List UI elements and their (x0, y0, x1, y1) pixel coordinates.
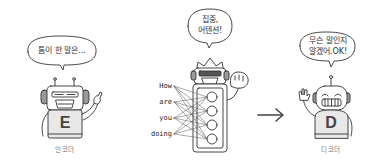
encoder-speech-text: 톰이 한 말은... (30, 46, 94, 56)
attention-speech-line2: 어텐션! (188, 26, 232, 36)
input-word: doing (138, 130, 172, 138)
decoder-label: 디코더 (318, 144, 344, 154)
decoder-speech-line1: 무슨 말인지 (302, 36, 354, 46)
encoder-label: 인코더 (52, 144, 78, 154)
input-word: you (138, 114, 172, 122)
right-arrow-icon (258, 109, 283, 121)
decoder-chest-letter: D (321, 114, 341, 132)
encoder-attention-decoder-diagram: 톰이 한 말은... E 인코더 집중, 어텐션! How are you do… (0, 0, 378, 164)
input-word: are (138, 98, 172, 106)
attention-speech-line1: 집중, (188, 15, 232, 25)
decoder-speech-line2: 알겠어.OK! (302, 47, 354, 57)
input-word: How (138, 82, 172, 90)
encoder-chest-letter: E (55, 114, 75, 132)
